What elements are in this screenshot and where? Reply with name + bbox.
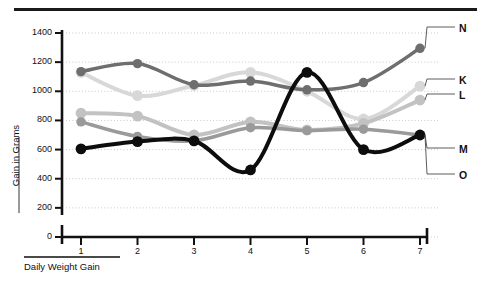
data-point-l-1 — [76, 108, 87, 119]
data-point-o-5 — [302, 67, 313, 78]
leader-line-m — [425, 135, 455, 148]
axis-group — [61, 30, 428, 244]
legend-item-l[interactable]: L — [459, 89, 465, 101]
leader-line-k — [425, 79, 455, 86]
y-tick-label: 1000 — [8, 85, 52, 95]
data-point-l-2 — [132, 111, 143, 122]
data-point-n-5 — [302, 85, 311, 94]
line-chart-svg — [0, 0, 491, 286]
y-tick-label: 0 — [8, 231, 52, 241]
x-axis-title-rule — [24, 256, 120, 258]
y-tick-label: 1400 — [8, 27, 52, 37]
legend-item-m[interactable]: M — [459, 143, 468, 155]
x-tick-label: 4 — [241, 246, 261, 256]
data-point-k-7 — [415, 81, 426, 92]
data-point-o-4 — [245, 165, 256, 176]
data-point-o-2 — [132, 136, 143, 147]
data-point-k-2 — [132, 90, 143, 101]
legend-item-o[interactable]: O — [459, 169, 467, 181]
x-tick-label: 5 — [297, 246, 317, 256]
x-tick-label: 3 — [184, 246, 204, 256]
leader-line-l — [425, 94, 455, 100]
leader-line-n — [425, 27, 455, 48]
data-point-n-1 — [76, 67, 85, 76]
data-point-n-4 — [246, 76, 255, 85]
x-tick-label: 2 — [128, 246, 148, 256]
data-series-group — [76, 44, 426, 176]
data-point-o-6 — [358, 144, 369, 155]
legend-item-n[interactable]: N — [459, 22, 467, 34]
data-point-k-4 — [245, 67, 256, 78]
data-point-n-2 — [133, 59, 142, 68]
data-point-o-7 — [415, 130, 426, 141]
data-point-l-7 — [415, 95, 426, 106]
chart-container: 0200400600800100012001400 1234567 Gain i… — [0, 0, 491, 286]
data-point-o-1 — [76, 143, 87, 154]
data-point-m-6 — [359, 124, 368, 133]
data-point-o-3 — [189, 135, 200, 146]
data-point-m-4 — [246, 123, 255, 132]
legend-item-k[interactable]: K — [459, 74, 467, 86]
data-point-n-3 — [189, 80, 198, 89]
data-point-n-7 — [415, 44, 424, 53]
data-point-n-6 — [359, 78, 368, 87]
x-tick-label: 7 — [410, 246, 430, 256]
legend-leader-lines — [425, 27, 455, 174]
y-tick-label: 1200 — [8, 56, 52, 66]
x-tick-label: 1 — [71, 246, 91, 256]
leader-line-o — [425, 135, 455, 174]
x-tick-label: 6 — [354, 246, 374, 256]
x-axis-title: Daily Weight Gain — [24, 261, 100, 272]
y-tick-label: 200 — [8, 202, 52, 212]
data-point-m-5 — [302, 126, 311, 135]
y-axis-title: Gain in Grams — [10, 111, 21, 201]
data-point-m-1 — [76, 117, 85, 126]
